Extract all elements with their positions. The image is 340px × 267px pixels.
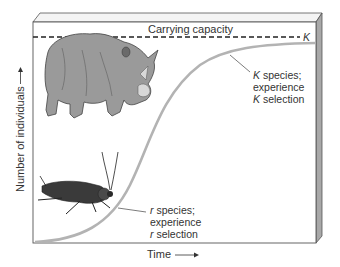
y-axis-label: Number of individuals bbox=[14, 86, 26, 192]
x-axis-arrowhead bbox=[194, 253, 199, 258]
k-annotation-line-3: K selection bbox=[253, 93, 305, 105]
logistic-growth-diagram: Carrying capacity K K species; experienc… bbox=[0, 0, 340, 267]
r-annotation-line-1: r species; bbox=[150, 204, 195, 216]
k-annotation-line-2: experience bbox=[253, 81, 305, 93]
r-species-annotation: r species; experience r selection bbox=[150, 204, 204, 240]
x-axis-label: Time bbox=[147, 248, 171, 260]
k-marker: K bbox=[303, 31, 311, 43]
box-top-face bbox=[33, 13, 322, 22]
r-annotation-line-3: r selection bbox=[150, 228, 198, 240]
carrying-capacity-label: Carrying capacity bbox=[148, 23, 233, 35]
r-annotation-line-2: experience bbox=[150, 216, 202, 228]
y-axis-arrowhead bbox=[18, 67, 23, 72]
k-species-annotation: K species; experience K selection bbox=[253, 69, 307, 105]
k-annotation-line-1: K species; bbox=[253, 69, 301, 81]
box-side-face bbox=[316, 13, 322, 243]
